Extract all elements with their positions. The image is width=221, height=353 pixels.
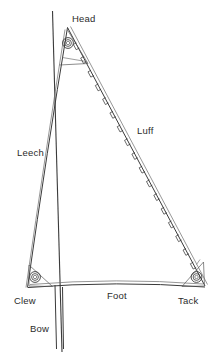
label-foot: Foot — [107, 290, 127, 301]
sail-diagram: Head Luff Leech Foot Clew Tack Bow — [0, 0, 221, 353]
label-bow: Bow — [30, 323, 49, 334]
tack-grommet — [191, 272, 202, 283]
clew-patch-hypotenuse — [29, 265, 53, 287]
label-head: Head — [72, 13, 96, 24]
bow-line-left — [55, 285, 57, 349]
mast-line — [53, 11, 63, 352]
bow-line-right — [63, 287, 64, 349]
head-grommet — [63, 38, 74, 49]
sail-outline-group — [26, 27, 208, 288]
sail-luff-tabling — [71, 27, 208, 285]
clew-patch-group — [29, 265, 53, 287]
bow-lines-group — [55, 285, 64, 349]
label-leech: Leech — [17, 147, 44, 158]
label-clew: Clew — [14, 295, 36, 306]
label-luff: Luff — [137, 125, 153, 136]
luff-hanks-group — [73, 43, 196, 269]
clew-grommet — [30, 272, 41, 283]
tack-patch-inner-line — [197, 260, 201, 265]
label-tack: Tack — [178, 295, 198, 306]
sail-luff-edge — [68, 28, 206, 287]
mast-line-group — [53, 11, 63, 352]
